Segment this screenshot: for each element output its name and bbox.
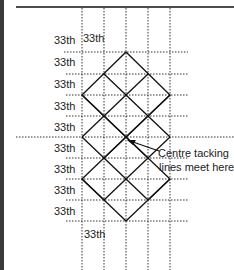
- smocking-grid-diagram: 33th 33th 33th 33th 33th 33th 33th 33th …: [0, 0, 234, 270]
- row-label: 33th: [54, 78, 75, 90]
- row-label: 33th: [54, 184, 75, 196]
- row-label: 33th: [54, 56, 75, 68]
- row-label: 33th: [54, 163, 75, 175]
- row-label: 33th: [54, 121, 75, 133]
- row-labels: 33th 33th 33th 33th 33th 33th 33th 33th …: [54, 34, 75, 217]
- row-label: 33th: [54, 205, 75, 217]
- annotation-arrow: [127, 140, 159, 151]
- annotation-line-2: lines meet here: [159, 161, 234, 173]
- row-label: 33th: [54, 34, 75, 46]
- top-column-label: 33th: [83, 32, 104, 44]
- row-label: 33th: [54, 100, 75, 112]
- row-label: 33th: [54, 142, 75, 154]
- bottom-column-label: 33th: [84, 228, 105, 240]
- annotation-line-1: Centre tacking: [158, 147, 229, 159]
